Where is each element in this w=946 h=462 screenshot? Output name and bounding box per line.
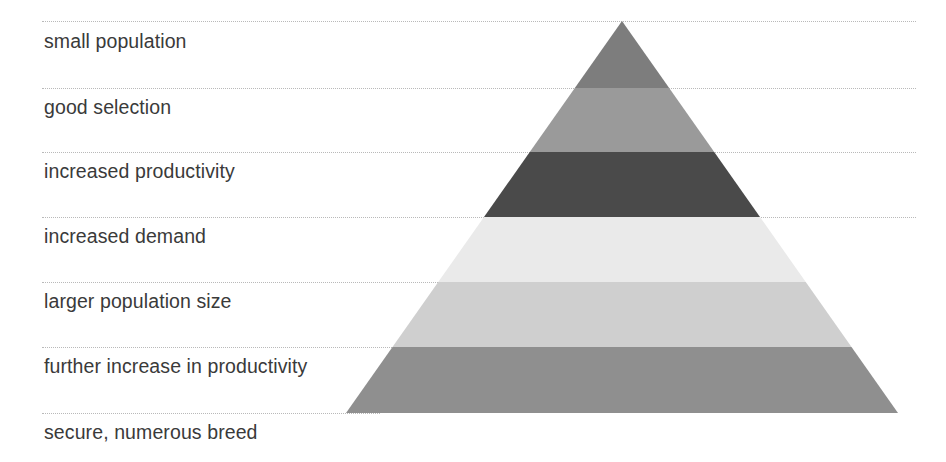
level-label-2: good selection bbox=[44, 96, 171, 118]
pyramid-band-1[interactable] bbox=[575, 21, 669, 88]
pyramid-band-2[interactable] bbox=[530, 88, 714, 152]
pyramid-band-3[interactable] bbox=[484, 152, 760, 217]
level-label-6: further increase in productivity bbox=[44, 355, 307, 377]
pyramid-band-5[interactable] bbox=[392, 282, 851, 347]
pyramid-band-4[interactable] bbox=[438, 217, 806, 282]
level-label-7: secure, numerous breed bbox=[44, 421, 258, 443]
level-label-4: increased demand bbox=[44, 225, 206, 247]
level-label-5: larger population size bbox=[44, 290, 232, 312]
level-label-1: small population bbox=[44, 30, 187, 52]
pyramid-band-6[interactable] bbox=[346, 347, 898, 413]
level-label-3: increased productivity bbox=[44, 160, 235, 182]
pyramid-diagram-canvas: small population good selection increase… bbox=[0, 0, 946, 462]
